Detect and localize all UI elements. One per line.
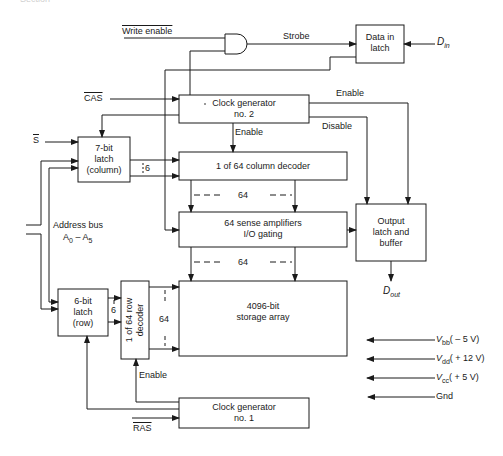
power-vdd-label: Vdd( + 12 V) — [436, 353, 485, 367]
storage-array-block: 4096-bitstorage array — [179, 301, 347, 323]
bus-64-label-a: 64 — [238, 190, 248, 201]
s-bar-label: S — [33, 135, 39, 146]
enable-output-label: Enable — [336, 88, 364, 99]
and-gate — [225, 34, 247, 54]
power-vcc-label: Vcc( + 5 V) — [436, 372, 479, 386]
disable-label: Disable — [322, 121, 352, 132]
d-out-label: Dout — [383, 285, 400, 300]
cas-label: CAS — [84, 93, 103, 104]
d-in-label: Din — [437, 36, 450, 51]
power-vbb-label: Vbb( – 5 V) — [436, 334, 479, 348]
address-bus-label: Address bus — [53, 220, 103, 231]
bus-64-label-b: 64 — [238, 257, 248, 268]
bus-6-row-label: 6 — [111, 305, 116, 316]
bus-64-row-label: 64 — [159, 314, 169, 325]
clock-generator-2-block: Clock generatorno. 2 — [179, 98, 309, 120]
bus-6-column-label: 6 — [145, 163, 150, 174]
clock-generator-1-block: Clock generatorno. 1 — [179, 402, 309, 424]
section-header-partial: Section — [20, 0, 50, 4]
write-enable-label: Write enable — [122, 26, 172, 37]
power-gnd-label: Gnd — [436, 391, 453, 402]
output-latch-block: Outputlatch andbuffer — [356, 216, 426, 249]
column-decoder-block: 1 of 64 column decoder — [179, 161, 347, 172]
latch-row-block: 6-bitlatch(row) — [58, 296, 108, 329]
ras-label: RAS — [133, 423, 152, 434]
enable-column-label: Enable — [235, 127, 263, 138]
sense-amplifiers-block: 64 sense amplifiersI/O gating — [179, 218, 347, 240]
latch-column-block: 7-bitlatch(column) — [78, 143, 130, 176]
row-decoder-block: 1 of 64 rowdecoder — [124, 281, 146, 359]
strobe-label: Strobe — [283, 31, 310, 42]
data-in-latch-block: Data inlatch — [356, 32, 404, 54]
enable-row-label: Enable — [139, 370, 167, 381]
address-range-label: A0 – A5 — [63, 232, 92, 246]
